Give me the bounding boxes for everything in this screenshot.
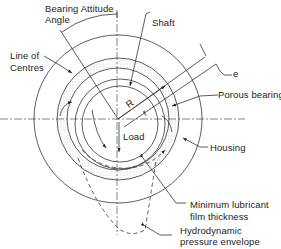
line-of-centres-label: Line of xyxy=(10,50,39,61)
shaft-circle xyxy=(75,79,165,169)
bearing-diagram: Bearing Attitude Angle Shaft Line of Cen… xyxy=(0,0,281,249)
porous-bearing-label: Porous bearing xyxy=(218,89,281,100)
shaft-inner-circle xyxy=(82,86,158,162)
attitude-angle-label: Bearing Attitude xyxy=(45,3,114,14)
pressure-envelope-label-2: pressure envelope xyxy=(180,236,260,247)
line-of-centres-label-2: Centres xyxy=(10,62,44,73)
eccentricity-label: e xyxy=(233,68,238,79)
min-film-label: Minimum lubricant xyxy=(190,199,269,210)
attitude-angle-label-2: Angle xyxy=(45,14,70,25)
pressure-envelope-label: Hydrodynamic xyxy=(180,225,242,236)
load-label: Load xyxy=(123,131,145,142)
min-film-label-2: film thickness xyxy=(190,211,248,222)
shaft-label: Shaft xyxy=(152,17,175,28)
housing-label: Housing xyxy=(210,142,246,153)
